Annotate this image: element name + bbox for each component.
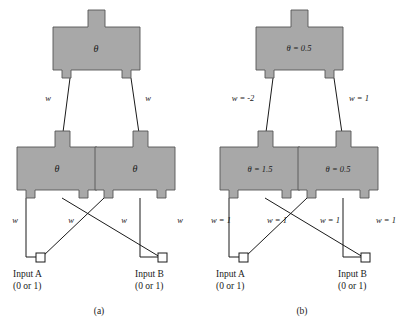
panel-b-caption: (b) — [296, 306, 307, 317]
output-gate-theta-label: θ — [94, 43, 99, 54]
hidden-right-gate-theta-label: θ — [133, 163, 138, 174]
hidden-left-gate-theta-label: θ = 1.5 — [248, 164, 273, 174]
wire-inputB-to-hidden-right — [343, 198, 367, 257]
panel-b-hidden-left-gate: θ = 1.5 — [220, 131, 300, 198]
wire-inputB-to-hidden-left — [62, 198, 160, 257]
panel-a-input-b-name: Input B — [135, 269, 164, 279]
hidden-right-gate-theta-label: θ = 0.5 — [326, 164, 351, 174]
panel-b-output-gate: θ = 0.5 — [256, 10, 343, 78]
panel-b-hidden-right-gate: θ = 0.5 — [298, 131, 378, 198]
wire-inputB-to-hidden-right — [140, 198, 164, 257]
panel-a-input-b-terminal — [158, 253, 167, 262]
hidden-left-gate-theta-label: θ — [55, 163, 60, 174]
panel-a-weight-inputB-to-hidden-left: w — [68, 215, 74, 225]
output-gate-theta-label: θ = 0.5 — [287, 43, 312, 53]
panel-b-weight-hidden-left-to-output: w = -2 — [232, 93, 255, 103]
panel-b-weight-hidden-right-to-output: w = 1 — [349, 93, 369, 103]
panel-a-weight-hidden-right-to-output: w — [145, 93, 151, 103]
panel-a-hidden-left-gate: θ — [17, 131, 97, 198]
panel-b-input-b-range: (0 or 1) — [338, 281, 367, 292]
panel-a-input-a-name: Input A — [13, 269, 42, 279]
wire-inputA-to-hidden-left — [229, 198, 241, 257]
panel-a-caption: (a) — [94, 306, 105, 317]
panel-a-input-a-terminal — [36, 253, 45, 262]
panel-a-output-gate: θ — [53, 10, 140, 78]
panel-a-weight-inputA-to-hidden-left: w — [12, 215, 18, 225]
wire-inputB-to-hidden-left — [265, 198, 363, 257]
panel-a: θ θ θ w w w w w w Input A (0 — [12, 10, 183, 317]
wire-inputA-to-hidden-left — [26, 198, 38, 257]
panel-a-weight-inputB-to-hidden-right: w — [177, 215, 183, 225]
panel-b-input-a-range: (0 or 1) — [216, 281, 245, 292]
panel-b-input-a-name: Input A — [216, 269, 245, 279]
panel-b: θ = 0.5 θ = 1.5 θ = 0.5 w = -2 w = 1 w =… — [211, 10, 396, 317]
panel-a-weight-inputA-to-hidden-right: w — [121, 215, 127, 225]
panel-a-input-b-range: (0 or 1) — [135, 281, 164, 292]
panel-a-weight-hidden-left-to-output: w — [45, 93, 51, 103]
wire-inputA-to-hidden-right — [42, 198, 104, 257]
threshold-logic-unit-figure: θ θ θ w w w w w w Input A (0 — [0, 0, 405, 328]
panel-b-weight-inputB-to-hidden-left: w = 1 — [267, 215, 287, 225]
panel-b-input-a-terminal — [239, 253, 248, 262]
panel-b-input-b-terminal — [361, 253, 370, 262]
panel-b-weight-inputB-to-hidden-right: w = 1 — [376, 215, 396, 225]
panel-b-input-b-name: Input B — [338, 269, 367, 279]
wire-inputA-to-hidden-right — [245, 198, 307, 257]
panel-b-weight-inputA-to-hidden-right: w = 1 — [320, 215, 340, 225]
panel-b-weight-inputA-to-hidden-left: w = 1 — [211, 215, 231, 225]
panel-a-hidden-right-gate: θ — [95, 131, 175, 198]
panel-a-input-a-range: (0 or 1) — [13, 281, 42, 292]
